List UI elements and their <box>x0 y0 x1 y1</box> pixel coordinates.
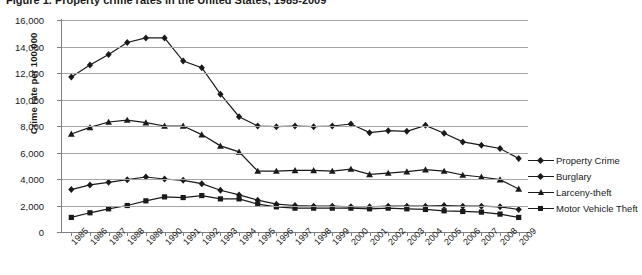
series-property-crime <box>68 34 522 162</box>
legend-label: Property Crime <box>554 155 620 166</box>
x-tick-mark <box>202 232 203 236</box>
data-point-marker <box>217 142 224 148</box>
data-point-marker <box>515 186 522 192</box>
legend-item-larceny-theft[interactable]: Larceny-theft <box>528 184 642 200</box>
data-point-marker <box>516 215 521 220</box>
data-point-marker <box>516 206 522 213</box>
legend-label: Larceny-theft <box>554 187 611 198</box>
x-tick-mark <box>500 232 501 236</box>
data-point-marker <box>404 206 409 211</box>
x-tick-mark <box>71 232 72 236</box>
diamond-marker-icon <box>528 170 554 182</box>
x-tick-mark <box>314 232 315 236</box>
x-tick-mark <box>407 232 408 236</box>
gridline <box>62 179 528 180</box>
square-marker-icon <box>528 202 554 214</box>
x-tick-mark <box>127 232 128 236</box>
gridline <box>62 73 528 74</box>
data-point-marker <box>460 209 465 214</box>
gridline <box>62 153 528 154</box>
gridline <box>62 47 528 48</box>
data-point-marker <box>236 196 241 201</box>
x-tick-mark <box>481 232 482 236</box>
x-tick-mark <box>463 232 464 236</box>
diamond-marker-icon <box>528 154 554 166</box>
data-point-marker <box>199 180 205 187</box>
legend-item-motor-vehicle-theft[interactable]: Motor Vehicle Theft <box>528 200 642 216</box>
gridline <box>62 100 528 101</box>
data-point-marker <box>143 34 149 41</box>
data-point-marker <box>218 196 223 201</box>
data-point-marker <box>68 73 74 80</box>
plot-area <box>62 20 528 232</box>
legend-label: Burglary <box>554 171 591 182</box>
data-point-marker <box>441 130 447 137</box>
property-crime-rate-line-chart: Figure 1. Property crime rates in the Un… <box>0 0 642 275</box>
chart-legend: Property CrimeBurglaryLarceny-theftMotor… <box>528 152 642 216</box>
x-tick-mark <box>425 232 426 236</box>
series-line <box>71 38 518 159</box>
data-point-marker <box>124 39 130 46</box>
x-tick-mark <box>276 232 277 236</box>
data-point-marker <box>198 131 205 137</box>
x-tick-mark <box>109 232 110 236</box>
chart-title-clipped: Figure 1. Property crime rates in the Un… <box>0 0 642 7</box>
data-point-marker <box>68 186 74 193</box>
y-tick-label: 4,000 <box>20 174 44 185</box>
x-tick-mark <box>351 232 352 236</box>
data-point-marker <box>460 138 466 145</box>
x-tick-mark <box>370 232 371 236</box>
y-tick-label: 8,000 <box>20 121 44 132</box>
data-point-marker <box>162 194 167 199</box>
y-tick-label: 0 <box>39 227 44 238</box>
data-point-marker <box>516 155 522 162</box>
data-point-marker <box>180 177 186 184</box>
data-point-marker <box>497 145 503 152</box>
data-point-marker <box>217 187 223 194</box>
data-point-marker <box>442 208 447 213</box>
data-point-marker <box>87 181 93 188</box>
data-point-marker <box>106 51 112 58</box>
x-tick-mark <box>388 232 389 236</box>
y-tick-label: 6,000 <box>20 147 44 158</box>
y-axis-tick-labels: 16,00014,00012,00010,0008,0006,0004,0002… <box>0 0 56 275</box>
data-point-marker <box>106 206 111 211</box>
data-point-marker <box>69 215 74 220</box>
data-point-marker <box>181 195 186 200</box>
legend-label: Motor Vehicle Theft <box>554 203 638 214</box>
x-tick-mark <box>90 232 91 236</box>
y-tick-label: 14,000 <box>15 41 44 52</box>
x-tick-mark <box>444 232 445 236</box>
legend-item-burglary[interactable]: Burglary <box>528 168 642 184</box>
data-point-marker <box>87 210 92 215</box>
data-point-marker <box>423 207 428 212</box>
y-tick-label: 10,000 <box>15 94 44 105</box>
y-tick-label: 12,000 <box>15 68 44 79</box>
y-tick-label: 2,000 <box>20 200 44 211</box>
data-point-marker <box>143 198 148 203</box>
data-point-marker <box>367 206 372 211</box>
data-point-marker <box>497 203 503 210</box>
data-point-marker <box>87 62 93 69</box>
x-tick-mark <box>332 232 333 236</box>
x-tick-mark <box>519 232 520 236</box>
data-point-marker <box>497 212 502 217</box>
gridline <box>62 126 528 127</box>
data-point-marker <box>199 193 204 198</box>
gridline <box>62 206 528 207</box>
x-tick-mark <box>258 232 259 236</box>
y-tick-label: 16,000 <box>15 15 44 26</box>
x-tick-mark <box>220 232 221 236</box>
x-tick-mark <box>165 232 166 236</box>
gridline <box>62 20 528 21</box>
data-point-marker <box>366 129 372 136</box>
data-point-marker <box>479 210 484 215</box>
triangle-marker-icon <box>528 186 554 198</box>
data-point-marker <box>478 142 484 149</box>
x-tick-mark <box>239 232 240 236</box>
x-tick-mark <box>146 232 147 236</box>
x-tick-mark <box>295 232 296 236</box>
data-point-marker <box>404 128 410 135</box>
legend-item-property-crime[interactable]: Property Crime <box>528 152 642 168</box>
x-tick-mark <box>183 232 184 236</box>
